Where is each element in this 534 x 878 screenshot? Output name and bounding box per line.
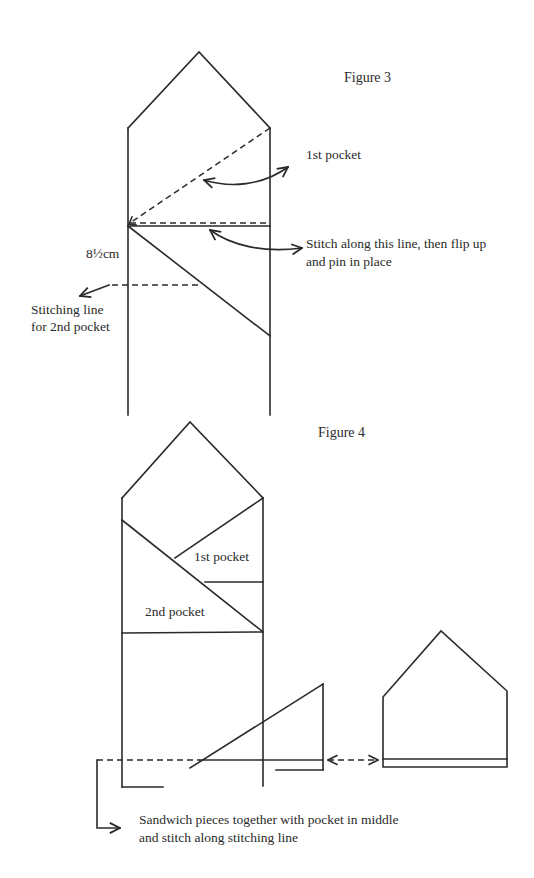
fig4-triangle-hypotenuse <box>190 684 323 768</box>
fig3-label-stitching-line-2: for 2nd pocket <box>31 318 110 335</box>
figure-4-drawing <box>97 422 507 828</box>
fig3-label-stitch-line-2: and pin in place <box>306 253 392 270</box>
fig3-stitch-line-arrow <box>210 230 302 250</box>
figure-4-title: Figure 4 <box>318 424 365 441</box>
fig3-label-first-pocket: 1st pocket <box>306 146 361 163</box>
fig3-second-pocket-diagonal <box>128 226 270 336</box>
fig4-main-roof <box>122 422 263 498</box>
fig3-label-measurement: 8½cm <box>86 245 119 262</box>
fig3-roof-outline <box>128 52 270 128</box>
fig3-first-pocket-fold-line <box>130 128 270 223</box>
fig4-back-piece-outline <box>383 631 507 767</box>
figure-3-drawing <box>80 52 302 415</box>
fig3-first-pocket-arrow <box>204 167 288 184</box>
fig3-label-stitch-line-1: Stitch along this line, then flip up <box>306 235 486 252</box>
fig4-label-sandwich-2: and stitch along stitching line <box>139 829 298 846</box>
fig3-label-stitching-line-1: Stitching line <box>31 301 103 318</box>
fig4-label-second-pocket: 2nd pocket <box>145 603 205 620</box>
fig4-sandwich-arrow <box>97 760 120 828</box>
fig4-second-pocket-bottom <box>122 632 263 633</box>
figure-3-title: Figure 3 <box>344 69 391 86</box>
pattern-diagram <box>0 0 534 878</box>
fig4-label-sandwich-1: Sandwich pieces together with pocket in … <box>139 811 398 828</box>
fig3-stitching-line-arrow <box>80 285 109 296</box>
fig4-label-first-pocket: 1st pocket <box>194 548 249 565</box>
